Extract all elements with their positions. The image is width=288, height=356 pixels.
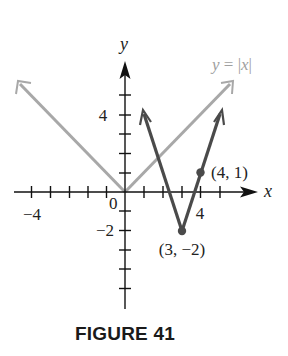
point-label-4-1: (4, 1) — [211, 163, 248, 182]
point-vertex-3-neg2 — [178, 227, 186, 235]
curve-label-abs-x: y = |x| — [210, 55, 252, 74]
y-axis-label: y — [118, 34, 128, 54]
x-axis — [14, 186, 250, 198]
tick-label-neg2: −2 — [96, 221, 114, 240]
tick-label-4-x: 4 — [196, 204, 205, 223]
tick-label-4-y: 4 — [99, 106, 108, 125]
point-label-3-neg2: (3, −2) — [159, 240, 205, 259]
x-axis-label: x — [263, 181, 272, 201]
figure-caption: FIGURE 41 — [0, 323, 250, 345]
graph-figure: y x 0 −4 4 4 −2 y = |x| (4, 1) (3, −2) — [0, 0, 288, 356]
tick-label-neg4: −4 — [23, 205, 42, 224]
origin-label: 0 — [109, 194, 118, 213]
point-4-1 — [196, 168, 204, 176]
